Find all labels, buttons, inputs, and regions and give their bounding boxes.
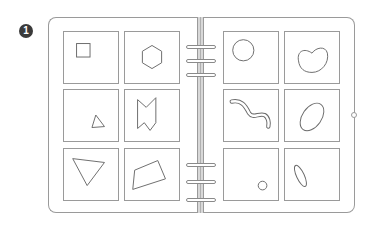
binder-ring bbox=[186, 188, 216, 192]
cell-bow-polygon bbox=[124, 89, 180, 142]
cell-small-circle bbox=[223, 148, 279, 201]
triangle-icon bbox=[64, 90, 118, 141]
quadrilateral-icon bbox=[125, 149, 179, 200]
binder-ring bbox=[186, 153, 216, 157]
circle-icon bbox=[224, 32, 278, 83]
binder-ring bbox=[186, 170, 216, 174]
cell-quadrilateral bbox=[124, 148, 180, 201]
small-circle-icon bbox=[224, 149, 278, 200]
cell-small-square bbox=[63, 31, 119, 84]
cell-circle bbox=[223, 31, 279, 84]
cell-hexagon bbox=[124, 31, 180, 84]
bow-polygon-icon bbox=[125, 90, 179, 141]
binder-ring bbox=[186, 49, 216, 53]
cell-worm bbox=[223, 89, 279, 142]
cell-thin-ellipse bbox=[284, 148, 340, 201]
inverted-triangle-icon bbox=[64, 149, 118, 200]
binder-clasp bbox=[351, 112, 357, 118]
binder-ring bbox=[186, 35, 216, 39]
thin-ellipse-icon bbox=[285, 149, 339, 200]
figure-number-badge: 1 bbox=[19, 24, 33, 38]
cell-tilted-ellipse bbox=[284, 89, 340, 142]
kidney-bean-icon bbox=[285, 32, 339, 83]
square-icon bbox=[64, 32, 118, 83]
binder-ring bbox=[186, 63, 216, 67]
ellipse-icon bbox=[285, 90, 339, 141]
cell-kidney bbox=[284, 31, 340, 84]
cell-small-triangle bbox=[63, 89, 119, 142]
cell-inverted-triangle bbox=[63, 148, 119, 201]
wavy-worm-icon bbox=[224, 90, 278, 141]
hexagon-icon bbox=[125, 32, 179, 83]
